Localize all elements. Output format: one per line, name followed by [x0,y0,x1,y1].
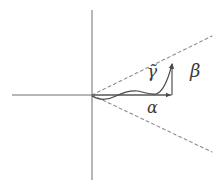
cone-curve-diagram-svg [0,0,220,187]
alpha-label: α [147,100,158,116]
beta-label: β [190,62,200,80]
gamma-tilde-label: γ̃ [147,63,157,80]
gamma-tilde-curve [92,64,172,99]
figure-canvas: γ̃ β α [0,0,220,187]
